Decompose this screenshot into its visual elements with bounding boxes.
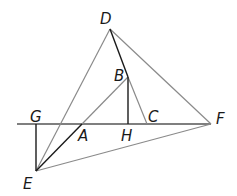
label-G: G xyxy=(30,108,42,126)
segment-DF xyxy=(110,29,211,124)
label-F: F xyxy=(216,110,225,128)
label-A: A xyxy=(77,127,88,145)
label-C: C xyxy=(148,108,159,126)
label-E: E xyxy=(23,175,33,193)
geometry-diagram: D B C F G A H E xyxy=(0,0,237,196)
segment-DE xyxy=(36,29,110,171)
label-H: H xyxy=(121,127,132,145)
label-B: B xyxy=(114,67,124,85)
segment-BC xyxy=(128,77,147,124)
label-D: D xyxy=(100,10,112,28)
segment-AE xyxy=(36,124,82,171)
